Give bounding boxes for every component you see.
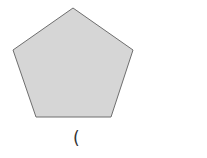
- answer-blank-paren: (: [73, 128, 80, 148]
- pentagon-figure: [0, 0, 207, 158]
- pentagon-shape: [13, 8, 133, 117]
